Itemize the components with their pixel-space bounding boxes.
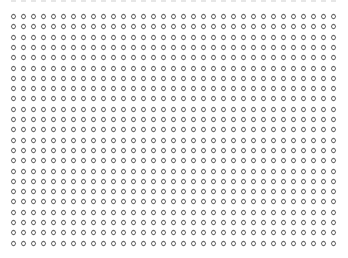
diamond-marker-icon xyxy=(80,95,87,102)
diamond-marker-icon xyxy=(300,126,307,133)
diamond-marker-icon xyxy=(40,23,47,30)
diamond-marker-icon xyxy=(10,178,17,185)
diamond-marker-icon xyxy=(70,137,77,144)
diamond-marker-icon xyxy=(190,188,197,195)
diamond-marker-icon xyxy=(240,198,247,205)
diamond-marker-icon xyxy=(250,65,257,72)
diamond-marker-icon xyxy=(120,209,127,216)
diamond-marker-icon xyxy=(310,34,317,41)
diamond-marker-icon xyxy=(300,75,307,82)
diamond-marker-icon xyxy=(330,188,337,195)
diamond-marker-icon xyxy=(80,240,87,247)
diamond-marker-icon xyxy=(90,137,97,144)
diamond-marker-icon xyxy=(280,178,287,185)
diamond-marker-icon xyxy=(110,23,117,30)
diamond-marker-icon xyxy=(170,85,177,92)
diamond-marker-icon xyxy=(50,188,57,195)
diamond-marker-icon xyxy=(300,34,307,41)
diamond-marker-icon xyxy=(320,209,327,216)
diamond-marker-icon xyxy=(220,168,227,175)
diamond-marker-icon xyxy=(180,209,187,216)
diamond-marker-icon xyxy=(140,137,147,144)
diamond-marker-icon xyxy=(290,229,297,236)
diamond-marker-icon xyxy=(30,44,37,51)
diamond-marker-icon xyxy=(160,23,167,30)
diamond-marker-icon xyxy=(180,126,187,133)
diamond-marker-icon xyxy=(50,157,57,164)
diamond-marker-icon xyxy=(300,65,307,72)
diamond-marker-icon xyxy=(320,75,327,82)
diamond-marker-icon xyxy=(270,188,277,195)
diamond-marker-icon xyxy=(150,54,157,61)
diamond-marker-icon xyxy=(80,178,87,185)
diamond-marker-icon xyxy=(60,188,67,195)
diamond-marker-icon xyxy=(230,23,237,30)
diamond-marker-icon xyxy=(70,157,77,164)
diamond-marker-icon xyxy=(280,198,287,205)
diamond-marker-icon xyxy=(120,13,127,20)
diamond-marker-icon xyxy=(240,178,247,185)
diamond-marker-icon xyxy=(70,65,77,72)
diamond-marker-icon xyxy=(90,13,97,20)
diamond-marker-icon xyxy=(170,198,177,205)
diamond-marker-icon xyxy=(90,126,97,133)
diamond-marker-icon xyxy=(280,219,287,226)
diamond-marker-icon xyxy=(50,34,57,41)
diamond-marker-icon xyxy=(130,188,137,195)
diamond-marker-icon xyxy=(140,34,147,41)
diamond-marker-icon xyxy=(250,126,257,133)
diamond-marker-icon xyxy=(320,85,327,92)
diamond-marker-icon xyxy=(300,229,307,236)
diamond-marker-icon xyxy=(230,126,237,133)
diamond-marker-icon xyxy=(40,116,47,123)
diamond-marker-icon xyxy=(50,116,57,123)
diamond-marker-icon xyxy=(20,209,27,216)
diamond-marker-icon xyxy=(90,85,97,92)
diamond-marker-icon xyxy=(210,116,217,123)
diamond-marker-icon xyxy=(270,168,277,175)
diamond-marker-icon xyxy=(190,95,197,102)
diamond-marker-icon xyxy=(90,116,97,123)
diamond-marker-icon xyxy=(150,13,157,20)
diamond-marker-icon xyxy=(230,106,237,113)
diamond-marker-icon xyxy=(220,198,227,205)
diamond-marker-icon xyxy=(200,168,207,175)
diamond-marker-icon xyxy=(190,198,197,205)
diamond-marker-icon xyxy=(220,229,227,236)
diamond-marker-icon xyxy=(40,65,47,72)
diamond-marker-icon xyxy=(40,209,47,216)
diamond-marker-icon xyxy=(10,54,17,61)
diamond-marker-icon xyxy=(130,209,137,216)
diamond-marker-icon xyxy=(220,209,227,216)
diamond-marker-icon xyxy=(110,65,117,72)
diamond-marker-icon xyxy=(240,240,247,247)
diamond-marker-icon xyxy=(280,229,287,236)
diamond-marker-icon xyxy=(210,240,217,247)
diamond-marker-icon xyxy=(60,168,67,175)
diamond-marker-icon xyxy=(40,168,47,175)
diamond-marker-icon xyxy=(10,116,17,123)
diamond-marker-icon xyxy=(190,34,197,41)
diamond-marker-icon xyxy=(160,65,167,72)
diamond-marker-icon xyxy=(250,240,257,247)
diamond-marker-icon xyxy=(250,137,257,144)
diamond-marker-icon xyxy=(240,137,247,144)
diamond-marker-icon xyxy=(40,34,47,41)
diamond-marker-icon xyxy=(150,106,157,113)
diamond-marker-icon xyxy=(40,240,47,247)
diamond-marker-icon xyxy=(230,219,237,226)
diamond-marker-icon xyxy=(190,147,197,154)
diamond-marker-icon xyxy=(290,209,297,216)
diamond-marker-icon xyxy=(310,23,317,30)
diamond-marker-icon xyxy=(110,95,117,102)
diamond-marker-icon xyxy=(120,137,127,144)
diamond-marker-icon xyxy=(330,137,337,144)
diamond-marker-icon xyxy=(330,147,337,154)
diamond-marker-icon xyxy=(200,178,207,185)
diamond-marker-icon xyxy=(270,240,277,247)
diamond-marker-icon xyxy=(140,157,147,164)
diamond-marker-icon xyxy=(50,209,57,216)
diamond-marker-icon xyxy=(120,85,127,92)
diamond-marker-icon xyxy=(290,106,297,113)
diamond-marker-icon xyxy=(50,54,57,61)
